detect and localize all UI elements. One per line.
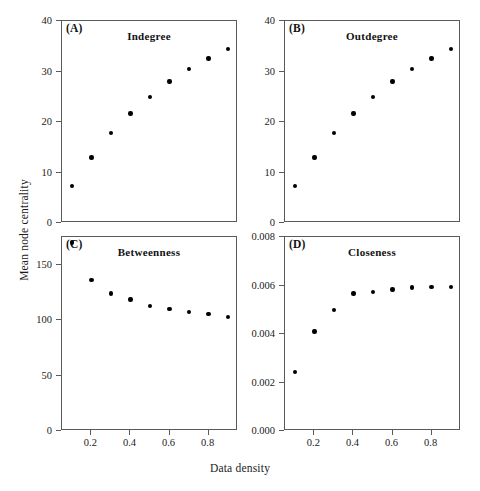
data-point [109, 291, 113, 295]
panel-d-closeness: (D) Closeness [284, 236, 460, 430]
data-point [429, 56, 433, 60]
y-axis-tick [56, 222, 61, 223]
data-point [70, 240, 74, 244]
y-axis-tick [279, 430, 284, 431]
data-point [293, 370, 297, 374]
data-point [89, 278, 93, 282]
y-axis-tick [56, 375, 61, 376]
y-axis-tick [56, 20, 61, 21]
x-axis-tick [392, 430, 393, 435]
y-axis-tick [56, 172, 61, 173]
y-axis-tick-label: 0 [8, 217, 52, 228]
data-point [371, 290, 375, 294]
data-point [187, 310, 191, 314]
y-axis-tick [56, 71, 61, 72]
y-axis-tick-label: 0.008 [231, 231, 275, 242]
panel-c-betweenness: (C) Betweenness [61, 236, 237, 430]
panel-c-plot-area [62, 237, 236, 429]
x-axis-tick [313, 430, 314, 435]
y-axis-tick [279, 172, 284, 173]
y-axis-tick-label: 0.002 [231, 376, 275, 387]
panel-b-plot-area [285, 21, 459, 221]
data-point [167, 307, 171, 311]
y-axis-tick-label: 40 [231, 15, 275, 26]
x-axis-tick-label: 0.6 [162, 437, 175, 448]
y-axis-tick-label: 0.000 [231, 425, 275, 436]
data-point [226, 47, 230, 51]
y-axis-tick-label: 0 [8, 425, 52, 436]
data-point [410, 285, 414, 289]
y-axis-tick [279, 236, 284, 237]
y-axis-tick [279, 382, 284, 383]
data-point [429, 285, 433, 289]
data-point [312, 155, 316, 159]
y-axis-tick-label: 50 [8, 369, 52, 380]
data-point [128, 111, 132, 115]
y-axis-tick [56, 264, 61, 265]
y-axis-tick [279, 121, 284, 122]
x-axis-tick [431, 430, 432, 435]
y-axis-tick [56, 121, 61, 122]
data-point [351, 111, 355, 115]
y-axis-tick [279, 71, 284, 72]
y-axis-tick-label: 30 [8, 65, 52, 76]
y-axis-tick [56, 319, 61, 320]
x-axis-tick-label: 0.8 [424, 437, 437, 448]
data-point [89, 155, 93, 159]
data-point [148, 304, 152, 308]
x-axis-tick [129, 430, 130, 435]
y-axis-tick-label: 0.004 [231, 328, 275, 339]
data-point [410, 67, 414, 71]
data-point [128, 297, 132, 301]
data-point [332, 131, 336, 135]
x-axis-tick [169, 430, 170, 435]
data-point [332, 308, 336, 312]
y-axis-tick-label: 10 [8, 166, 52, 177]
y-axis-tick-label: 10 [231, 166, 275, 177]
data-point [293, 184, 297, 188]
data-point [70, 184, 74, 188]
y-axis-tick-label: 20 [231, 116, 275, 127]
y-axis-tick-label: 40 [8, 15, 52, 26]
y-axis-tick-label: 100 [8, 314, 52, 325]
y-axis-tick [56, 430, 61, 431]
panel-d-plot-area [285, 237, 459, 429]
x-axis-tick-label: 0.4 [346, 437, 359, 448]
data-point [109, 131, 113, 135]
x-axis-tick [352, 430, 353, 435]
x-axis-tick-label: 0.6 [385, 437, 398, 448]
data-point [449, 285, 453, 289]
data-point [390, 79, 394, 83]
x-axis-tick-label: 0.4 [123, 437, 136, 448]
y-axis-tick [279, 20, 284, 21]
data-point [449, 47, 453, 51]
x-axis-tick-label: 0.2 [84, 437, 97, 448]
x-axis-label: Data density [0, 462, 480, 474]
x-axis-tick-label: 0.2 [307, 437, 320, 448]
figure-multi-panel-scatter: Mean node centrality Data density (A) In… [0, 0, 480, 491]
data-point [371, 95, 375, 99]
data-point [226, 315, 230, 319]
y-axis-tick-label: 30 [231, 65, 275, 76]
y-axis-tick-label: 0.006 [231, 279, 275, 290]
data-point [206, 312, 210, 316]
y-axis-tick-label: 150 [8, 258, 52, 269]
data-point [148, 95, 152, 99]
data-point [167, 79, 171, 83]
y-axis-tick [279, 285, 284, 286]
x-axis-tick [90, 430, 91, 435]
x-axis-tick-label: 0.8 [201, 437, 214, 448]
data-point [187, 67, 191, 71]
y-axis-tick-label: 0 [231, 217, 275, 228]
y-axis-tick-label: 20 [8, 116, 52, 127]
data-point [312, 329, 316, 333]
data-point [206, 56, 210, 60]
data-point [390, 287, 394, 291]
y-axis-tick [279, 222, 284, 223]
data-point [351, 291, 355, 295]
panel-a-plot-area [62, 21, 236, 221]
x-axis-tick [208, 430, 209, 435]
panel-a-indegree: (A) Indegree [61, 20, 237, 222]
panel-b-outdegree: (B) Outdegree [284, 20, 460, 222]
y-axis-tick [279, 333, 284, 334]
